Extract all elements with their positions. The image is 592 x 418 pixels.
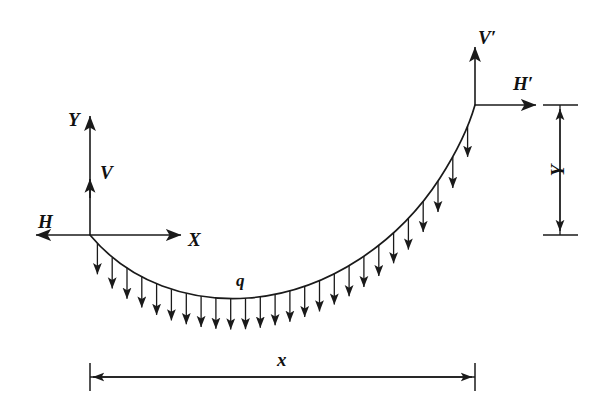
v-reaction-label: V bbox=[100, 163, 113, 182]
cable-load-diagram: Y X H V H′ V′ q x Y bbox=[0, 0, 592, 418]
distributed-load-label: q bbox=[236, 272, 245, 289]
cable-curve bbox=[90, 105, 475, 299]
diagram-canvas bbox=[0, 0, 592, 418]
x-axis-label: X bbox=[188, 230, 201, 249]
h-reaction-label: H bbox=[38, 212, 53, 231]
h-prime-reaction-label: H′ bbox=[513, 74, 533, 93]
height-dimension-label: Y bbox=[548, 165, 567, 177]
y-axis-label: Y bbox=[68, 110, 80, 129]
span-dimension-label: x bbox=[277, 350, 287, 369]
distributed-load-arrows bbox=[97, 126, 467, 330]
v-prime-reaction-label: V′ bbox=[478, 28, 496, 47]
